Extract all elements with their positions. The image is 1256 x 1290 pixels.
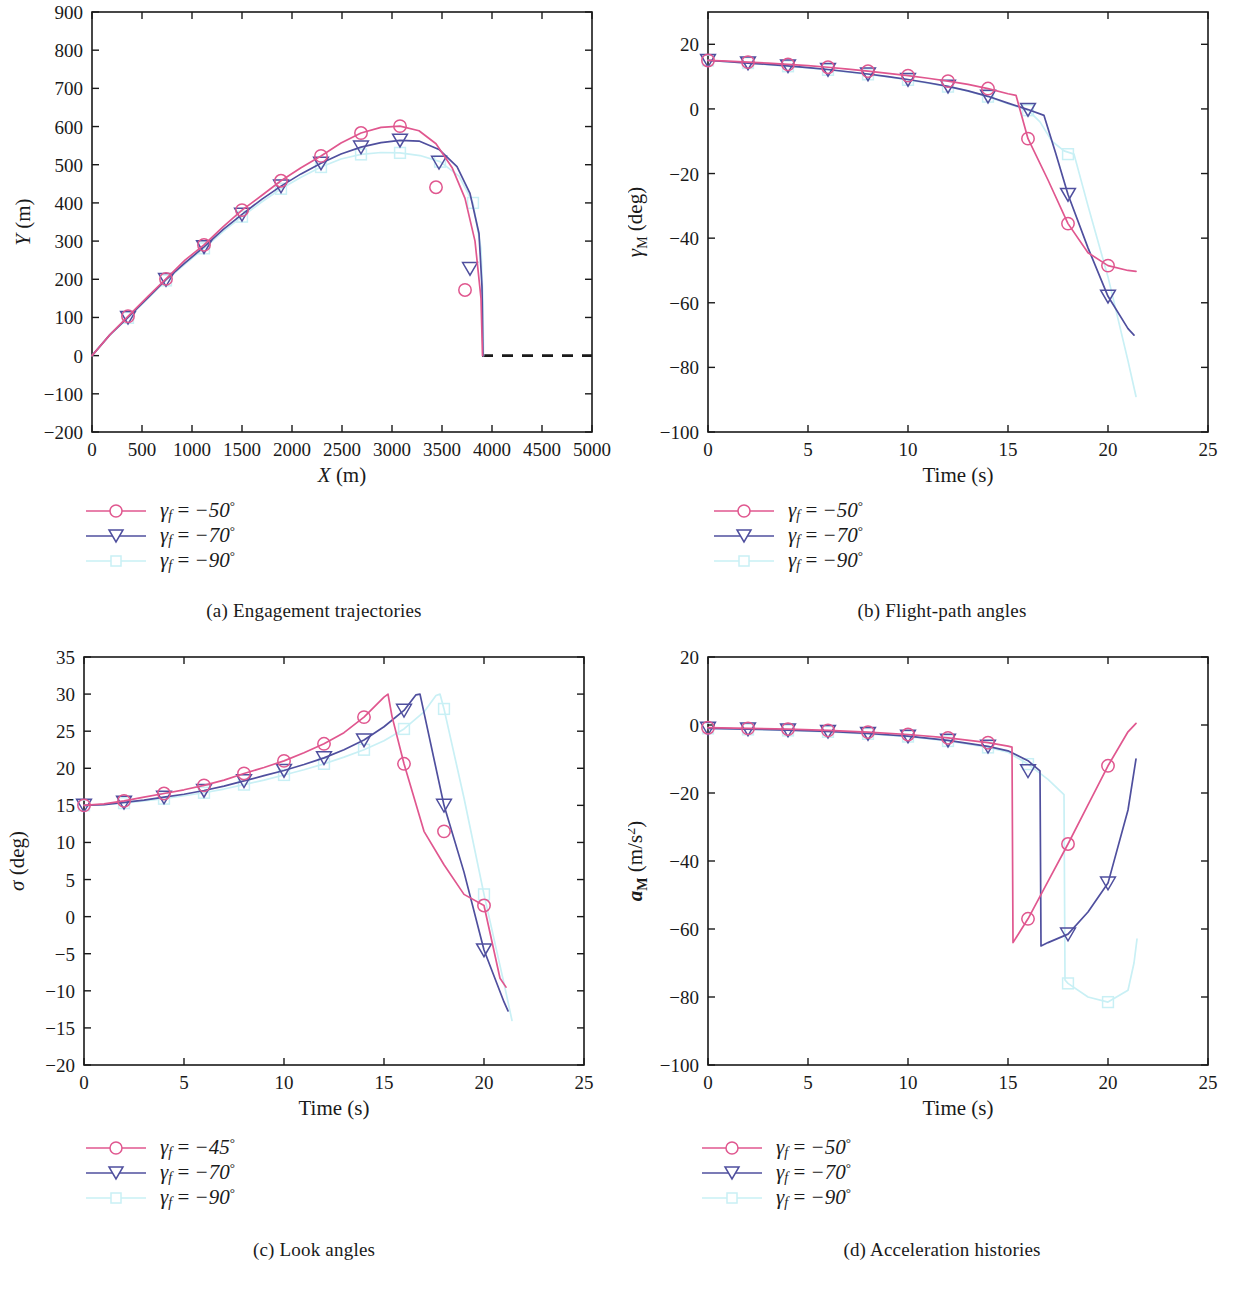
- caption-b: (b) Flight-path angles: [628, 600, 1256, 622]
- y-tick-label: 5: [66, 870, 76, 891]
- x-axis-title: X (m): [317, 463, 366, 487]
- y-tick-label: 300: [55, 231, 84, 252]
- x-tick-label: 10: [899, 439, 918, 460]
- legend-key-triangle-down-icon: [712, 526, 776, 546]
- legend-item: γf = −90°: [84, 1185, 235, 1210]
- y-tick-label: 35: [56, 647, 75, 668]
- y-tick-label: 700: [55, 78, 84, 99]
- series-line-1: [708, 723, 1136, 942]
- x-tick-label: 2500: [323, 439, 361, 460]
- legend-item: γf = −50°: [84, 498, 235, 523]
- y-tick-label: −5: [55, 944, 75, 965]
- marker-circle: [430, 181, 442, 193]
- y-tick-label: −60: [669, 293, 699, 314]
- y-tick-label: 800: [55, 40, 84, 61]
- x-tick-label: 25: [1199, 1072, 1218, 1093]
- plot-frame: [92, 12, 592, 432]
- x-tick-label: 1000: [173, 439, 211, 460]
- y-tick-label: −80: [669, 987, 699, 1008]
- legend-item: γf = −90°: [700, 1185, 851, 1210]
- series-line-3: [708, 728, 1137, 1002]
- x-tick-label: 5: [803, 1072, 813, 1093]
- x-tick-label: 1500: [223, 439, 261, 460]
- x-tick-label: 15: [999, 439, 1018, 460]
- series-line-2: [92, 140, 483, 355]
- caption-d: (d) Acceleration histories: [628, 1239, 1256, 1261]
- x-axis-title: Time (s): [923, 1096, 994, 1120]
- legend-b: γf = −50°γf = −70°γf = −90°: [712, 498, 863, 573]
- caption-a: (a) Engagement trajectories: [0, 600, 628, 622]
- legend-label: γf = −45°: [148, 1135, 235, 1161]
- y-axis-title: aM (m/s2): [628, 821, 650, 901]
- legend-c: γf = −45°γf = −70°γf = −90°: [84, 1135, 235, 1210]
- legend-item: γf = −50°: [700, 1135, 851, 1160]
- y-tick-label: 20: [680, 34, 699, 55]
- marker-circle: [438, 825, 450, 837]
- legend-label: γf = −50°: [148, 498, 235, 524]
- x-tick-label: 20: [475, 1072, 494, 1093]
- x-tick-label: 0: [79, 1072, 89, 1093]
- x-axis-title: Time (s): [923, 463, 994, 487]
- legend-label: γf = −90°: [148, 1185, 235, 1211]
- x-tick-label: 20: [1099, 439, 1118, 460]
- x-tick-label: 2000: [273, 439, 311, 460]
- legend-key-square-icon: [84, 1188, 148, 1208]
- x-tick-label: 10: [275, 1072, 294, 1093]
- y-tick-label: −40: [669, 851, 699, 872]
- x-tick-label: 4500: [523, 439, 561, 460]
- x-tick-label: 0: [703, 1072, 713, 1093]
- marker-circle: [459, 284, 471, 296]
- legend-item: γf = −45°: [84, 1135, 235, 1160]
- legend-label: γf = −90°: [776, 548, 863, 574]
- legend-a: γf = −50°γf = −70°γf = −90°: [84, 498, 235, 573]
- y-tick-label: 0: [74, 346, 84, 367]
- y-tick-label: 30: [56, 684, 75, 705]
- legend-key-triangle-down-icon: [84, 526, 148, 546]
- x-tick-label: 0: [87, 439, 97, 460]
- x-tick-label: 5000: [573, 439, 611, 460]
- figure-four-panel: 0500100015002000250030003500400045005000…: [0, 0, 1256, 1290]
- y-tick-label: 0: [690, 715, 700, 736]
- panel-a-engagement-trajectories: 0500100015002000250030003500400045005000…: [0, 0, 628, 645]
- y-tick-label: −80: [669, 357, 699, 378]
- marker-triangle-down: [463, 263, 478, 276]
- legend-key-circle-icon: [700, 1138, 764, 1158]
- y-tick-label: −60: [669, 919, 699, 940]
- legend-label: γf = −70°: [764, 1160, 851, 1186]
- y-tick-label: 10: [56, 832, 75, 853]
- y-tick-label: −15: [45, 1018, 75, 1039]
- legend-key-circle-icon: [84, 501, 148, 521]
- x-tick-label: 15: [375, 1072, 394, 1093]
- y-tick-label: 25: [56, 721, 75, 742]
- legend-d: γf = −50°γf = −70°γf = −90°: [700, 1135, 851, 1210]
- y-axis-title: γM (deg): [628, 187, 650, 257]
- legend-key-triangle-down-icon: [700, 1163, 764, 1183]
- plot-frame: [708, 657, 1208, 1065]
- legend-label: γf = −90°: [148, 548, 235, 574]
- y-tick-label: 15: [56, 795, 75, 816]
- series-line-1: [84, 694, 506, 987]
- plot-frame: [708, 12, 1208, 432]
- y-tick-label: 0: [66, 907, 76, 928]
- y-tick-label: −10: [45, 981, 75, 1002]
- y-tick-label: −20: [669, 164, 699, 185]
- x-tick-label: 5: [179, 1072, 189, 1093]
- x-tick-label: 25: [575, 1072, 594, 1093]
- x-tick-label: 15: [999, 1072, 1018, 1093]
- y-tick-label: 20: [56, 758, 75, 779]
- panel-b-flight-path-angles: 0510152025−100−80−60−40−20020Time (s)γM …: [628, 0, 1256, 645]
- legend-item: γf = −70°: [84, 1160, 235, 1185]
- panel-c-look-angles: 0510152025−20−15−10−505101520253035Time …: [0, 645, 628, 1290]
- legend-key-square-icon: [712, 551, 776, 571]
- legend-label: γf = −90°: [764, 1185, 851, 1211]
- legend-label: γf = −70°: [148, 523, 235, 549]
- legend-item: γf = −90°: [712, 548, 863, 573]
- y-tick-label: −40: [669, 228, 699, 249]
- series-line-3: [84, 694, 512, 1020]
- series-line-2: [84, 694, 508, 1011]
- y-tick-label: 400: [55, 193, 84, 214]
- x-tick-label: 25: [1199, 439, 1218, 460]
- series-line-1: [92, 126, 483, 355]
- y-tick-label: 200: [55, 269, 84, 290]
- y-tick-label: 900: [55, 2, 84, 23]
